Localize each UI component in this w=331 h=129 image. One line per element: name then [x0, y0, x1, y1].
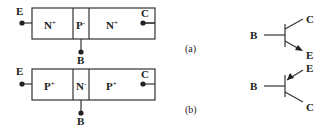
symbol-emitter-a: E — [306, 50, 313, 61]
label-emitter-b: E — [16, 66, 23, 77]
symbol-emitter-b: E — [306, 63, 313, 74]
collector-terminal-dot — [140, 20, 145, 25]
caption-a: (a) — [185, 44, 196, 54]
emitter-terminal-dot — [19, 20, 24, 25]
label-collector-a: C — [141, 8, 149, 19]
collector-terminal-dot — [140, 81, 145, 86]
region-collector-b: P+ — [106, 79, 117, 92]
symbol-collector-b: C — [306, 102, 314, 113]
label-collector-b: C — [141, 69, 149, 80]
emitter-terminal-dot — [19, 81, 24, 86]
label-base-b: B — [77, 116, 84, 127]
caption-b: (b) — [185, 105, 197, 115]
region-emitter-b: P+ — [44, 79, 55, 92]
emitter-arrow-out-icon — [295, 45, 303, 51]
region-emitter-a: N+ — [44, 18, 56, 31]
region-base-b: N- — [76, 79, 86, 92]
region-collector-a: N+ — [106, 18, 118, 31]
region-base-a: P- — [76, 18, 85, 31]
symbol-base-a: B — [250, 30, 257, 41]
symbol-base-b: B — [250, 81, 257, 92]
symbol-collector-a: C — [306, 14, 314, 25]
label-base-a: B — [77, 55, 84, 66]
label-emitter-a: E — [16, 6, 23, 17]
